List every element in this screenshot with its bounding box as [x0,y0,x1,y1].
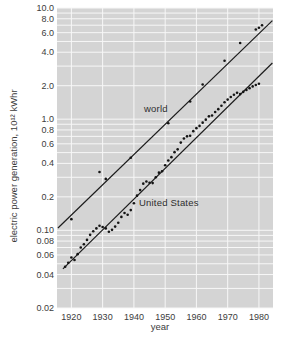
point-united-states [98,224,101,227]
point-united-states [189,134,192,137]
point-united-states [92,230,95,233]
point-united-states [108,230,111,233]
point-united-states [154,176,157,179]
point-united-states [223,101,226,104]
point-united-states [64,265,67,268]
y-axis-title: electric power generation, 10¹² kWhr [8,89,19,242]
y-tick-label: 0.2 [22,192,54,202]
point-world [261,24,264,27]
x-tick-label: 1920 [54,312,88,322]
united-states-series-label: United States [139,197,199,208]
point-united-states [104,227,107,230]
y-tick-label: 1.0 [22,114,54,124]
point-united-states [220,104,223,107]
point-world [70,218,73,221]
point-united-states [133,202,136,205]
point-united-states [161,170,164,173]
point-united-states [176,148,179,151]
point-united-states [148,181,151,184]
point-world [201,83,204,86]
point-united-states [145,180,148,183]
point-united-states [230,96,233,99]
chart-figure: 10.08.06.04.02.01.00.80.60.40.20.100.080… [0,0,289,348]
point-world [98,171,101,174]
y-tick-label: 0.08 [22,236,54,246]
world-series-label: world [144,103,168,114]
point-united-states [89,234,92,237]
point-united-states [226,98,229,101]
point-united-states [242,91,245,94]
y-tick-label: 0.4 [22,158,54,168]
y-tick-label: 0.06 [22,250,54,260]
x-axis-title: year [151,321,169,332]
point-united-states [211,114,214,117]
point-world [223,59,226,62]
point-united-states [245,89,248,92]
point-united-states [170,156,173,159]
point-united-states [151,182,154,185]
point-united-states [198,125,201,128]
point-united-states [142,182,145,185]
point-united-states [111,229,114,232]
y-tick-label: 2.0 [22,81,54,91]
point-united-states [204,118,207,121]
y-tick-label: 0.10 [22,225,54,235]
point-united-states [73,259,76,262]
y-tick-label: 10.0 [22,3,54,13]
point-united-states [236,91,239,94]
point-united-states [79,246,82,249]
point-united-states [117,221,120,224]
point-united-states [83,243,86,246]
point-united-states [248,87,251,90]
point-united-states [186,135,189,138]
point-united-states [173,151,176,154]
x-tick-label: 1930 [86,312,120,322]
point-united-states [195,127,198,130]
x-tick-label: 1940 [117,312,151,322]
x-tick-label: 1960 [179,312,213,322]
y-tick-label: 6.0 [22,28,54,38]
point-united-states [167,159,170,162]
point-united-states [139,189,142,192]
y-tick-label: 8.0 [22,14,54,24]
point-united-states [70,256,73,259]
point-united-states [217,108,220,111]
point-world [258,26,261,29]
point-united-states [158,171,161,174]
point-united-states [208,115,211,118]
point-united-states [192,130,195,133]
y-tick-label: 0.02 [22,303,54,313]
y-tick-label: 0.04 [22,270,54,280]
x-tick-label: 1980 [242,312,276,322]
point-united-states [136,194,139,197]
point-united-states [95,227,98,230]
point-united-states [214,111,217,114]
point-united-states [114,225,117,228]
point-united-states [76,253,79,256]
point-united-states [201,121,204,124]
point-united-states [129,209,132,212]
point-united-states [251,85,254,88]
point-world [129,156,132,159]
x-tick-label: 1970 [211,312,245,322]
point-united-states [86,239,89,242]
point-world [255,28,258,31]
point-united-states [67,262,70,265]
point-united-states [179,141,182,144]
point-united-states [123,212,126,215]
point-united-states [101,226,104,229]
y-tick-label: 4.0 [22,47,54,57]
y-tick-label: 0.8 [22,125,54,135]
y-tick-label: 0.6 [22,139,54,149]
point-united-states [164,164,167,167]
point-united-states [120,216,123,219]
point-world [167,122,170,125]
point-united-states [183,137,186,140]
point-united-states [258,82,261,85]
point-united-states [233,93,236,96]
point-united-states [239,93,242,96]
point-world [239,42,242,45]
point-united-states [126,213,129,216]
point-world [104,178,107,181]
point-world [189,100,192,103]
